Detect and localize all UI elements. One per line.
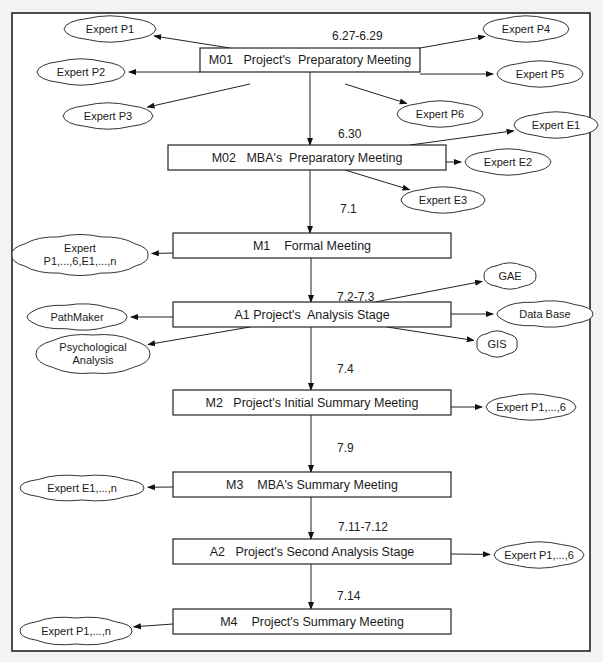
cloud-label: Expert P3 — [84, 110, 132, 122]
cloud-label: Expert P1,...,6 — [504, 549, 574, 561]
process-box-label: A1 Project's Analysis Stage — [234, 308, 389, 322]
date-label: 7.9 — [337, 441, 354, 455]
cloud-label: Expert P1,...,6 — [496, 401, 566, 413]
date-label: 7.1 — [340, 202, 357, 216]
cloud-label: Expert P4 — [502, 23, 550, 35]
cloud-label: PathMaker — [50, 311, 104, 323]
cloud-label: Analysis — [73, 354, 114, 366]
cloud-gis: GIS — [477, 331, 517, 357]
cloud-label: Psychological — [59, 341, 126, 353]
process-box-label: A2 Project's Second Analysis Stage — [210, 545, 415, 559]
process-box-m2: M2 Project's Initial Summary Meeting — [173, 390, 451, 415]
cloud-label: Expert P2 — [57, 66, 105, 78]
cloud-label: P1,...,6,E1,...,n — [44, 255, 117, 267]
cloud-a2: Expert P1,...,6 — [494, 542, 584, 568]
date-label: 7.14 — [337, 589, 361, 603]
cloud-label: Data Base — [519, 308, 570, 320]
cloud-p4: Expert P4 — [483, 16, 569, 42]
cloud-label: Expert E2 — [484, 156, 532, 168]
cloud-gae: GAE — [484, 263, 536, 289]
process-box-label: M02 MBA's Preparatory Meeting — [212, 151, 403, 165]
date-label: 6.30 — [338, 127, 362, 141]
cloud-label: Expert P5 — [516, 68, 564, 80]
cloud-label: Expert E1 — [532, 119, 580, 131]
process-box-m01: M01 Project's Preparatory Meeting — [200, 48, 420, 72]
process-box-a2: A2 Project's Second Analysis Stage — [173, 539, 451, 564]
cloud-label: Expert E3 — [419, 194, 467, 206]
cloud-m1: ExpertP1,...,6,E1,...,n — [12, 234, 148, 275]
process-box-a1: A1 Project's Analysis Stage — [173, 302, 451, 327]
process-box-m1: M1 Formal Meeting — [173, 233, 451, 258]
cloud-db: Data Base — [497, 301, 593, 327]
edge-m1-to-c-m1 — [152, 253, 173, 254]
date-label: 7.11-7.12 — [338, 520, 388, 534]
date-label: 7.4 — [337, 362, 354, 376]
cloud-label: Expert P1 — [86, 23, 134, 35]
process-box-label: M4 Project's Summary Meeting — [220, 615, 404, 629]
cloud-m3: Expert E1,...,n — [20, 475, 144, 501]
cloud-e1: Expert E1 — [514, 112, 598, 138]
process-box-label: M3 MBA's Summary Meeting — [226, 478, 398, 492]
cloud-psy: PsychologicalAnalysis — [36, 335, 150, 374]
workflow-diagram: 6.27-6.296.307.17.2-7.37.47.97.11-7.127.… — [0, 0, 603, 662]
process-box-label: M01 Project's Preparatory Meeting — [209, 53, 412, 67]
process-box-m4: M4 Project's Summary Meeting — [173, 609, 451, 634]
cloud-e2: Expert E2 — [465, 149, 551, 175]
process-box-label: M1 Formal Meeting — [253, 239, 371, 253]
process-box-label: M2 Project's Initial Summary Meeting — [206, 396, 419, 410]
cloud-m4: Expert P1,...,n — [20, 617, 132, 645]
cloud-p5: Expert P5 — [497, 61, 583, 87]
cloud-p6: Expert P6 — [397, 101, 483, 127]
cloud-label: Expert P6 — [416, 108, 464, 120]
cloud-label: Expert E1,...,n — [47, 482, 117, 494]
process-box-m02: M02 MBA's Preparatory Meeting — [168, 145, 446, 170]
date-label: 6.27-6.29 — [332, 29, 383, 43]
cloud-label: Expert — [64, 242, 96, 254]
process-box-m3: M3 MBA's Summary Meeting — [173, 472, 451, 497]
cloud-p1: Expert P1 — [64, 16, 156, 42]
cloud-label: Expert P1,...,n — [41, 625, 111, 637]
cloud-e3: Expert E3 — [401, 187, 485, 213]
cloud-label: GIS — [488, 338, 507, 350]
cloud-p3: Expert P3 — [63, 103, 153, 129]
cloud-label: GAE — [498, 270, 521, 282]
cloud-m2: Expert P1,...,6 — [486, 394, 576, 420]
cloud-p2: Expert P2 — [37, 59, 125, 85]
cloud-pm: PathMaker — [27, 304, 127, 330]
